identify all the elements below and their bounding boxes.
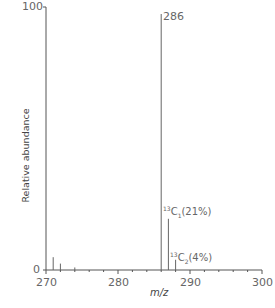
x-tick-label-280: 280 bbox=[108, 276, 129, 289]
mass-spectrum-chart bbox=[0, 0, 275, 308]
peak-label-286: 286 bbox=[163, 10, 184, 23]
isotope-label-13c2: 13C2(4%) bbox=[170, 251, 212, 265]
isotope-percent: (4%) bbox=[188, 252, 212, 263]
x-axis-label: m/z bbox=[150, 287, 168, 298]
x-tick-label-300: 300 bbox=[252, 276, 273, 289]
peaks bbox=[53, 14, 175, 270]
x-tick-label-290: 290 bbox=[180, 276, 201, 289]
y-tick-label-0: 0 bbox=[33, 263, 40, 276]
isotope-percent: (21%) bbox=[181, 206, 211, 217]
isotope-mass-13: 13 bbox=[163, 205, 171, 212]
carbon-symbol: C bbox=[171, 206, 178, 217]
y-axis-label: Relative abundance bbox=[20, 101, 31, 211]
x-ticks bbox=[46, 270, 262, 274]
isotope-mass-13: 13 bbox=[170, 251, 178, 258]
isotope-label-13c1: 13C1(21%) bbox=[163, 205, 211, 219]
x-tick-label-270: 270 bbox=[36, 276, 57, 289]
y-tick-label-100: 100 bbox=[22, 0, 43, 13]
carbon-symbol: C bbox=[178, 252, 185, 263]
